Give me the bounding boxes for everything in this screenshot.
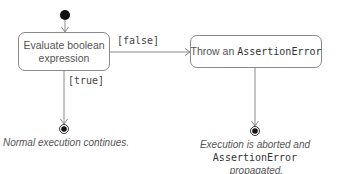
throw-assertion-error-action: Throw an AssertionError <box>190 35 322 68</box>
evaluate-line2: expression <box>23 52 104 65</box>
final-node-normal <box>60 125 69 134</box>
caption-normal: Normal execution continues. <box>0 136 132 149</box>
caption-abort-suffix: propagated. <box>227 165 283 174</box>
throw-prefix: Throw an <box>191 45 238 58</box>
initial-node <box>60 10 70 20</box>
evaluate-boolean-expression-action: Evaluate boolean expression <box>18 32 110 71</box>
guard-false: [false] <box>117 35 159 46</box>
caption-abort-code: AssertionError <box>213 152 297 163</box>
evaluate-line1: Evaluate boolean <box>23 39 104 52</box>
guard-true: [true] <box>68 75 104 86</box>
caption-abort-line1: Execution is aborted and <box>185 138 325 151</box>
throw-code: AssertionError <box>237 45 321 58</box>
caption-abort: Execution is aborted and AssertionError … <box>185 138 325 174</box>
final-node-abort <box>251 127 260 136</box>
